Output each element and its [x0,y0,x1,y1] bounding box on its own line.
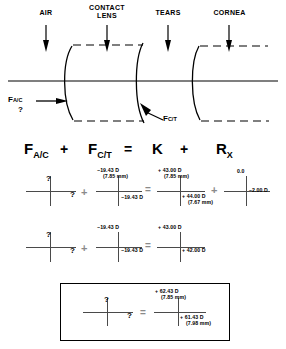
row1-fct-bottom: −19.43 D [121,194,143,200]
formula-term-k: K [152,140,163,157]
formula-rx-sub: X [227,150,233,160]
row2-k-top: + 43.00 D [158,224,182,230]
row2-unknown-top: ? [46,230,51,239]
formula-rx-base: R [216,140,227,157]
result-unknown-right: ? [127,311,132,320]
cornea-front-surface [192,46,200,120]
row2-unknown-cross [26,232,76,262]
main-formula: FA/C + FC/T = K + RX [0,138,286,164]
label-arrows [46,25,229,46]
row2-fct-bottom: −19.43 D [121,247,143,253]
row2-plus-1: + [81,242,87,254]
row1-unknown-right: ? [70,190,75,199]
row1-k-bottom: + 44.00 D (7.67 mm) [182,193,213,205]
formula-term-f-ct: FC/T [88,140,112,160]
annotation-f-ac: FA/C [8,95,22,104]
result-total-top-radius: (7.85 mm) [155,294,186,300]
label-tears: TEARS [148,9,188,16]
annotation-f-ct: FC/T [163,114,177,123]
label-contact-lens: CONTACT LENS [82,4,132,20]
row2-k-bottom: + 42.00 D [182,247,206,253]
label-cornea: CORNEA [207,9,252,16]
annotation-f-ac-sub: A/C [13,97,22,103]
result-total-bottom: + 61.43 D (7.98 mm) [180,314,211,326]
row1-k-top-radius: (7.85 mm) [158,173,189,179]
equation-row-2: ? ? + −19.43 D −19.43 D = + 43.00 D + 42… [0,222,286,266]
row2-unknown-right: ? [70,246,75,255]
result-unknown-top: ? [104,295,109,304]
diagram-svg [0,0,286,135]
formula-f-ac-sub: A/C [33,150,49,160]
formula-term-rx: RX [216,140,233,160]
result-total-top: + 62.43 D (7.85 mm) [155,288,186,300]
contact-lens-front-surface [65,46,73,120]
row1-fct-cross [96,176,142,206]
formula-equals: = [124,141,132,157]
formula-k-base: K [152,140,163,157]
row1-fct-top-radius: (7.85 mm) [97,173,128,179]
row2-equals: = [145,240,151,251]
formula-f-ct-base: F [88,140,97,157]
annotation-f-ct-sub: C/T [168,116,177,122]
row1-unknown-top: ? [46,174,51,183]
row1-plus-2: + [211,184,217,196]
label-air: AIR [26,9,66,16]
row1-k-bottom-radius: (7.67 mm) [182,199,213,205]
optical-diagram: AIR CONTACT LENS TEARS CORNEA FA/C ? FC/… [0,0,286,135]
result-box: ? ? = + 62.43 D (7.85 mm) + 61.43 D (7.9… [60,283,230,341]
row1-fct-top: −19.43 D (7.85 mm) [97,167,128,179]
formula-f-ac-base: F [24,140,33,157]
row1-unknown-cross [26,176,76,206]
row1-rx-top: 0.0 [237,168,245,174]
arrowheads [43,40,232,116]
row1-rx-right: –2.00 D [249,187,268,193]
result-total-bottom-radius: (7.98 mm) [180,320,211,326]
equation-row-1: ? ? + −19.43 D (7.85 mm) −19.43 D = + 43… [0,166,286,212]
contact-lens-back-surface [136,43,144,123]
row1-plus-1: + [81,186,87,198]
row2-fct-top: −19.43 D [97,224,119,230]
formula-plus-2: + [180,141,188,157]
result-equals: = [140,307,146,318]
annotation-f-ac-unknown: ? [18,105,23,114]
row1-k-top: + 43.00 D (7.85 mm) [158,167,189,179]
formula-f-ct-sub: C/T [97,150,112,160]
formula-term-f-ac: FA/C [24,140,49,160]
row1-equals: = [145,184,151,195]
dashed-chords [73,45,269,121]
formula-plus-1: + [60,141,68,157]
